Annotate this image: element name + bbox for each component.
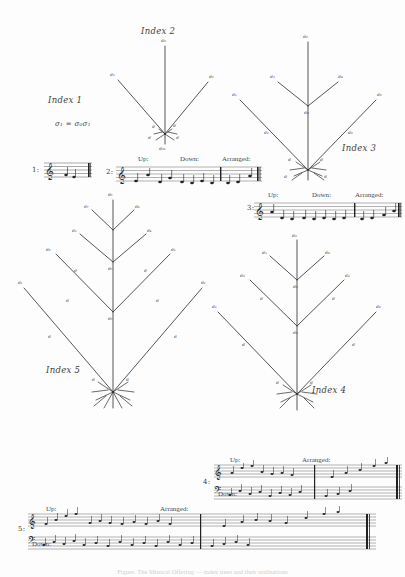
svg-text:𝄞: 𝄞 (214, 464, 222, 480)
staff-3-section-down: Down: (312, 191, 331, 199)
svg-text:σ₄: σ₄ (171, 247, 176, 252)
staff-2: 𝄞 (116, 163, 262, 187)
tree-label-index-4: Index 4 (312, 385, 346, 395)
svg-text:σ₃: σ₃ (270, 74, 275, 79)
svg-text:σ: σ (74, 268, 77, 273)
svg-text:σ: σ (48, 334, 51, 339)
svg-text:σ₈: σ₈ (135, 204, 140, 209)
svg-text:σ: σ (352, 342, 356, 347)
svg-text:σ₀: σ₀ (293, 330, 298, 335)
svg-text:σ₀: σ₀ (303, 34, 308, 39)
svg-text:σ₂: σ₂ (376, 304, 381, 309)
svg-text:σ₁: σ₁ (212, 304, 217, 309)
staff-number-1: 1: (32, 166, 39, 174)
svg-text:σ: σ (156, 298, 159, 303)
tree-label-index-5: Index 5 (46, 365, 80, 375)
staff-3: 𝄞 (254, 199, 402, 223)
svg-text:σ₄: σ₄ (338, 74, 343, 79)
svg-text:𝄞: 𝄞 (45, 162, 54, 180)
svg-text:σ₀₁: σ₀₁ (159, 146, 166, 151)
figure-caption: Figure. The Musical Offering — index tre… (0, 568, 405, 577)
svg-text:𝄞: 𝄞 (117, 166, 126, 184)
svg-text:𝄢: 𝄢 (214, 485, 221, 498)
svg-text:𝄢: 𝄢 (28, 535, 35, 548)
staff-1: 𝄞 (44, 160, 92, 182)
svg-text:σ₀: σ₀ (293, 284, 298, 289)
svg-text:σ: σ (173, 123, 177, 128)
svg-text:σ₀: σ₀ (108, 192, 113, 197)
tree-index-4: σ₀ σ₅ σ₆ σ₃ σ₄ σ₁ σ₂ σ₀ σ₀ σ σ σ σ σ σ (212, 234, 387, 414)
staff-3-section-up: Up: (268, 191, 279, 199)
svg-text:σ: σ (66, 298, 69, 303)
tree-formula-index-1: σ₁ = σ₀σ₁ (55, 120, 91, 128)
svg-text:σ₆: σ₆ (325, 250, 330, 255)
svg-text:σ: σ (148, 135, 152, 140)
svg-text:σ₁: σ₁ (18, 280, 23, 285)
svg-text:σ: σ (288, 157, 292, 162)
svg-text:σ: σ (152, 124, 156, 129)
svg-text:σ: σ (276, 380, 280, 385)
svg-text:σ₂: σ₂ (348, 130, 353, 135)
svg-text:σ₂: σ₂ (201, 280, 206, 285)
tree-index-2: σ₀ σ₁ σ₂ σ₀₁ σ σ σ σ (110, 22, 220, 152)
staff-5: 𝄞 𝄢 (28, 512, 376, 554)
svg-text:σ₁: σ₁ (232, 92, 237, 97)
svg-text:σ₀: σ₀ (161, 38, 166, 43)
staff-2-section-arranged: Arranged: (222, 155, 250, 163)
staff-number-2: 2: (106, 168, 113, 176)
svg-text:𝄞: 𝄞 (28, 513, 36, 529)
tree-index-5: σ₀ σ₇ σ₈ σ₅ σ₆ σ₃ σ₄ σ₁ σ₂ σ₀ σ₀ σ σ σ σ… (18, 196, 208, 411)
svg-text:σ: σ (332, 296, 336, 301)
svg-text:σ₇: σ₇ (84, 204, 89, 209)
svg-text:σ: σ (260, 296, 264, 301)
tree-index-3: σ₀ σ₃ σ₄ σ₀ σ₁ σ₂ σ₁ σ₂ σ σ σ σ (228, 30, 393, 180)
svg-text:σ₀: σ₀ (304, 110, 309, 115)
staff-2-section-up: Up: (138, 155, 149, 163)
svg-text:σ: σ (320, 157, 324, 162)
svg-text:σ₂: σ₂ (209, 74, 214, 79)
svg-text:σ: σ (92, 377, 95, 382)
svg-text:𝄞: 𝄞 (255, 202, 264, 220)
staff-3-section-arranged: Arranged: (355, 191, 383, 199)
manuscript-page: Index 1 σ₁ = σ₀σ₁ (0, 0, 405, 577)
staff-number-5: 5: (18, 525, 25, 533)
svg-text:σ₅: σ₅ (72, 228, 77, 233)
svg-text:σ₄: σ₄ (345, 273, 350, 278)
svg-text:σ₃: σ₃ (46, 247, 51, 252)
svg-text:σ: σ (126, 377, 129, 382)
staff-2-section-down: Down: (180, 155, 199, 163)
staff-number-4: 4: (203, 478, 210, 486)
svg-text:σ: σ (324, 174, 328, 179)
svg-text:σ₅: σ₅ (262, 250, 267, 255)
tree-label-index-3: Index 3 (342, 143, 376, 153)
svg-text:σ₃: σ₃ (240, 273, 245, 278)
svg-text:σ: σ (242, 342, 246, 347)
svg-text:σ₁: σ₁ (264, 130, 269, 135)
svg-text:σ: σ (144, 268, 147, 273)
svg-text:σ₂: σ₂ (377, 92, 382, 97)
staff-4: 𝄞 𝄢 (214, 463, 402, 503)
svg-text:σ₁: σ₁ (110, 72, 115, 77)
svg-text:σ: σ (284, 174, 288, 179)
svg-text:σ: σ (176, 135, 180, 140)
tree-label-index-2: Index 2 (141, 26, 175, 36)
tree-label-index-1: Index 1 (48, 95, 82, 105)
svg-text:σ: σ (174, 334, 177, 339)
svg-text:σ₆: σ₆ (147, 228, 152, 233)
svg-text:σ₀: σ₀ (108, 266, 113, 271)
svg-text:σ₀: σ₀ (108, 316, 113, 321)
svg-text:σ₀: σ₀ (292, 233, 297, 238)
